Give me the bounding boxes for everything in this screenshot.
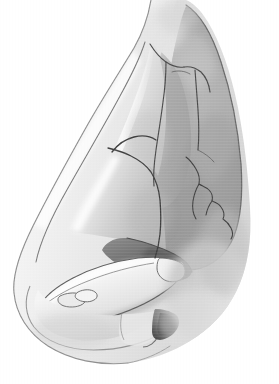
anatomical-figure: nasal skeleton, lateral (profile) view: [0, 0, 279, 384]
paper-texture-overlay: [0, 0, 279, 384]
nasal-skeleton-illustration: [0, 0, 279, 384]
